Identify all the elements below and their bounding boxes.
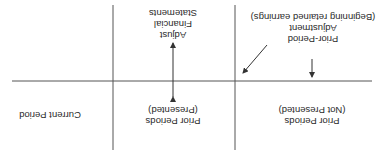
label-line: Prior Periods <box>123 116 223 127</box>
label-line: Current Period <box>10 110 90 121</box>
label-line: (Presented) <box>123 105 223 116</box>
timeline-diagram: Prior Periods (Not Presented) Prior Peri… <box>0 0 390 157</box>
label-line: Adjust <box>133 30 213 41</box>
label-line: Prior-Period <box>238 34 388 45</box>
label-line: Statements <box>133 8 213 19</box>
arrow-adjustment-icon <box>243 45 267 73</box>
label-line: Adjustment <box>238 23 388 34</box>
annotation-prior-period-adjustment: Prior-Period Adjustment (Beginning retai… <box>238 12 388 45</box>
annotation-adjust-financial-statements: Adjust Financial Statements <box>133 8 213 41</box>
label-prior-not-presented: Prior Periods (Not Presented) <box>262 105 362 127</box>
label-current-period: Current Period <box>10 110 90 121</box>
label-line: (Not Presented) <box>262 105 362 116</box>
label-line: (Beginning retained earnings) <box>238 12 388 23</box>
label-line: Prior Periods <box>262 116 362 127</box>
label-line: Financial <box>133 19 213 30</box>
label-prior-presented: Prior Periods (Presented) <box>123 105 223 127</box>
